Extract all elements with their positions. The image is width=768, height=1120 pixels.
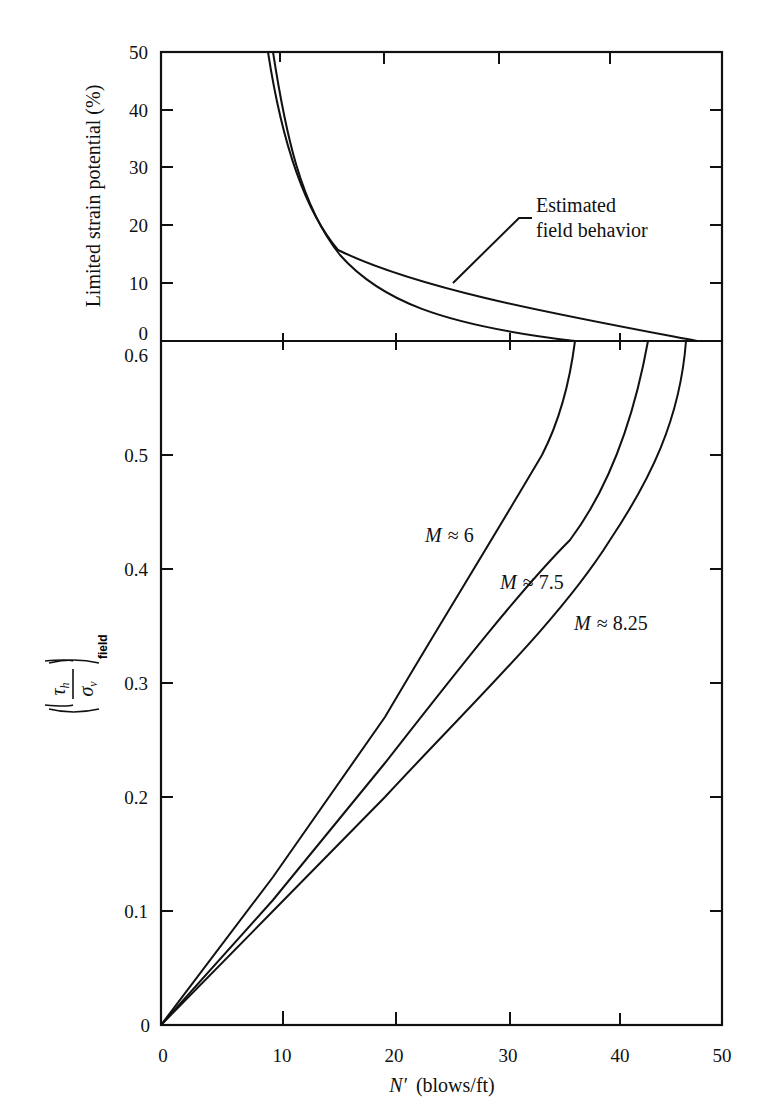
label-m825: M≈ 8.25 <box>573 612 648 634</box>
lower-y-axis-title: τh σv field <box>43 634 110 712</box>
xtick-30: 30 <box>499 1045 518 1066</box>
lower-y-tick-labels: 0 0.1 0.2 0.3 0.4 0.5 0.6 <box>124 345 150 1036</box>
upper-ytick-20: 20 <box>129 215 148 236</box>
lower-ytick-0.2: 0.2 <box>124 787 148 808</box>
lower-ytick-0.5: 0.5 <box>124 445 148 466</box>
upper-ytick-50: 50 <box>129 42 148 63</box>
curve-estimated-field-behavior <box>268 52 697 341</box>
upper-y-axis-title: Limited strain potential (%) <box>82 85 105 308</box>
chart-figure: 0 10 20 30 40 50 0 0.1 0.2 0.3 0.4 0.5 0… <box>0 0 768 1120</box>
ylabel-subscript-field: field <box>96 634 110 659</box>
label-m6: M≈ 6 <box>424 524 474 546</box>
upper-ytick-30: 30 <box>129 157 148 178</box>
lower-ytick-0.3: 0.3 <box>124 673 148 694</box>
curve-strain-lower <box>273 52 575 341</box>
upper-ytick-40: 40 <box>129 100 148 121</box>
lower-ytick-0: 0 <box>141 1015 151 1036</box>
xtick-10: 10 <box>273 1045 292 1066</box>
upper-curves <box>268 52 697 341</box>
label-m75: M≈ 7.5 <box>499 571 564 593</box>
annotation-estimated: Estimated <box>536 194 616 216</box>
upper-ytick-0: 0 <box>139 323 149 344</box>
x-axis-variable: N′ <box>388 1074 407 1096</box>
upper-y-ticks <box>161 52 722 350</box>
annotation-leader <box>453 218 532 283</box>
x-ticks <box>283 1011 620 1025</box>
xtick-40: 40 <box>611 1045 630 1066</box>
x-axis-title: N′ (blows/ft) <box>388 1074 495 1097</box>
x-axis-unit: (blows/ft) <box>416 1074 495 1097</box>
lower-ytick-0.4: 0.4 <box>124 559 148 580</box>
lower-ytick-0.6: 0.6 <box>124 345 148 366</box>
curve-m6 <box>161 341 575 1025</box>
ylabel-denominator: σv <box>75 681 100 697</box>
upper-ytick-10: 10 <box>129 273 148 294</box>
xtick-0: 0 <box>158 1045 168 1066</box>
lower-ytick-0.1: 0.1 <box>124 901 148 922</box>
ylabel-numerator: τh <box>47 682 72 695</box>
xtick-50: 50 <box>713 1045 732 1066</box>
upper-y-tick-labels: 0 10 20 30 40 50 <box>129 42 148 344</box>
x-tick-labels: 0 10 20 30 40 50 <box>158 1045 731 1066</box>
annotation-field-behavior: field behavior <box>536 219 648 241</box>
lower-curves <box>161 341 686 1025</box>
xtick-20: 20 <box>385 1045 404 1066</box>
